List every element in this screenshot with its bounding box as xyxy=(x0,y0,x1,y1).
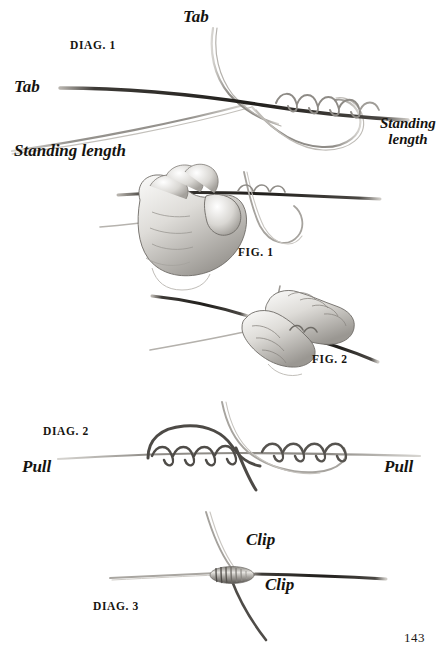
diagram-1-label-tab-top: Tab xyxy=(183,8,209,26)
figure-1-caption: FIG. 1 xyxy=(238,246,274,258)
standing-length-right-line-2: length xyxy=(380,132,436,148)
figure-2-illustration xyxy=(0,0,447,669)
diagram-3-label-clip-top: Clip xyxy=(246,531,275,549)
diagram-1-caption: DIAG. 1 xyxy=(70,39,116,51)
diagram-3-label-clip-bottom: Clip xyxy=(265,576,294,594)
book-page: DIAG. 1 Tab Tab Standing length Standing… xyxy=(0,0,447,669)
diagram-2-label-pull-left: Pull xyxy=(22,458,51,476)
diagram-3-illustration xyxy=(0,0,447,669)
diagram-2-illustration xyxy=(0,0,447,669)
diagram-1-illustration xyxy=(0,0,447,669)
page-number: 143 xyxy=(404,630,425,646)
figure-1-illustration xyxy=(0,0,447,669)
diagram-2-caption: DIAG. 2 xyxy=(43,425,89,437)
diagram-1-label-standing-length-right: Standing length xyxy=(380,116,436,148)
diagram-1-label-standing-length-left: Standing length xyxy=(14,142,126,160)
diagram-2-label-pull-right: Pull xyxy=(384,458,413,476)
figure-2-caption: FIG. 2 xyxy=(312,353,348,365)
diagram-1-label-tab-left: Tab xyxy=(14,78,40,96)
diagram-3-caption: DIAG. 3 xyxy=(93,600,139,612)
standing-length-right-line-1: Standing xyxy=(380,115,436,131)
